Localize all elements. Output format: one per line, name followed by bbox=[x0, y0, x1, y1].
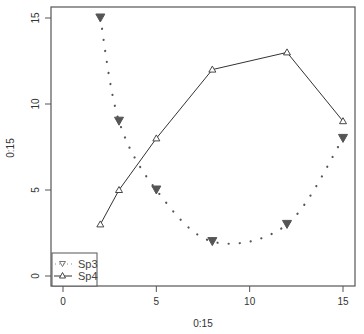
legend-label-sp4: Sp4 bbox=[78, 270, 98, 282]
y-tick-label: 0 bbox=[30, 273, 41, 279]
x-tick-label: 0 bbox=[60, 296, 66, 307]
up-triangle-marker bbox=[97, 221, 104, 227]
down-triangle-marker bbox=[208, 238, 217, 246]
legend: Sp3 Sp4 bbox=[52, 253, 98, 286]
down-triangle-marker bbox=[115, 117, 124, 125]
series-sp3 bbox=[96, 14, 348, 246]
chart: 051015 051015 0:15 0:15 Sp3 Sp4 bbox=[0, 0, 364, 334]
legend-label-sp3: Sp3 bbox=[78, 258, 98, 270]
down-triangle-marker bbox=[283, 220, 292, 228]
x-tick-label: 10 bbox=[244, 296, 256, 307]
x-tick-label: 15 bbox=[337, 296, 349, 307]
y-axis-title: 0:15 bbox=[5, 138, 16, 158]
y-axis: 051015 bbox=[30, 12, 51, 279]
y-tick-label: 15 bbox=[30, 12, 41, 24]
x-axis-title: 0:15 bbox=[193, 318, 213, 329]
x-axis: 051015 bbox=[60, 286, 349, 307]
plot-frame bbox=[51, 7, 355, 286]
up-triangle-marker bbox=[284, 49, 291, 55]
down-triangle-marker bbox=[339, 134, 348, 142]
y-tick-label: 10 bbox=[30, 98, 41, 110]
series-sp4 bbox=[97, 49, 347, 227]
down-triangle-marker bbox=[96, 14, 105, 22]
y-tick-label: 5 bbox=[30, 187, 41, 193]
x-tick-label: 5 bbox=[154, 296, 160, 307]
